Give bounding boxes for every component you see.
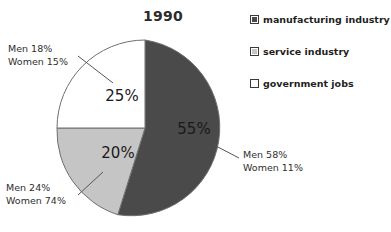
- annotation-government-men: Men 18%: [8, 42, 68, 55]
- slice-value-service: 20%: [101, 144, 134, 162]
- dark-filled-swatch-icon: [250, 15, 259, 24]
- annotation-government-women: Women 15%: [8, 55, 68, 68]
- gray-filled-swatch-icon: [250, 47, 259, 56]
- pie-chart-figure: 1990 55% 20% 25% Men 18% Women 15% Men 2…: [0, 0, 391, 232]
- annotation-manufacturing-industry: Men 58% Women 11%: [243, 148, 303, 174]
- white-outline-swatch-icon: [250, 79, 259, 88]
- slice-value-manufacturing: 55%: [177, 120, 210, 138]
- annotation-government-jobs: Men 18% Women 15%: [8, 42, 68, 68]
- annotation-service-men: Men 24%: [6, 181, 66, 194]
- annotation-manufacturing-women: Women 11%: [243, 161, 303, 174]
- legend-item-government-jobs[interactable]: government jobs: [250, 78, 391, 89]
- annotation-manufacturing-men: Men 58%: [243, 148, 303, 161]
- annotation-service-women: Women 74%: [6, 194, 66, 207]
- annotation-service-industry: Men 24% Women 74%: [6, 181, 66, 207]
- legend-label-manufacturing-industry: manufacturing industry: [263, 14, 390, 25]
- legend-item-manufacturing-industry[interactable]: manufacturing industry: [250, 14, 391, 25]
- slice-value-government: 25%: [105, 87, 138, 105]
- pie-slice-government[interactable]: [57, 40, 145, 128]
- leader-line-manufacturing: [214, 145, 239, 158]
- legend-label-service-industry: service industry: [263, 46, 349, 57]
- legend: manufacturing industry service industry …: [250, 14, 391, 110]
- legend-item-service-industry[interactable]: service industry: [250, 46, 391, 57]
- legend-label-government-jobs: government jobs: [263, 78, 354, 89]
